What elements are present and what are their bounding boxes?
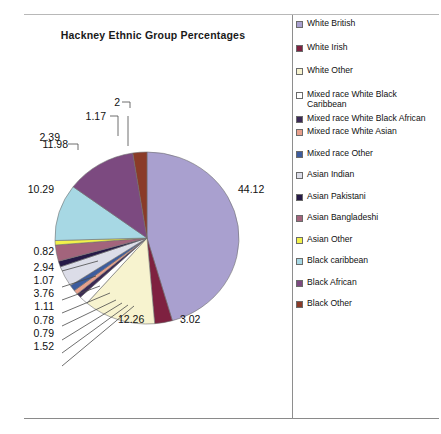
data-label-12-26: 12.26 <box>118 313 144 325</box>
legend-swatch-icon <box>296 258 303 265</box>
legend-item[interactable]: Asian Bangladeshi <box>296 212 438 223</box>
legend-item-label: Asian Other <box>307 234 352 245</box>
data-label-1-11: 1.11 <box>8 300 54 312</box>
data-label-0-82: 0.82 <box>8 245 54 257</box>
legend-swatch-icon <box>296 116 303 123</box>
legend-swatch-icon <box>296 215 303 222</box>
legend-item[interactable]: Asian Pakistani <box>296 191 438 202</box>
data-label-2: 2 <box>74 96 120 108</box>
legend-item[interactable]: White Irish <box>296 42 438 53</box>
legend-item[interactable]: White British <box>296 18 438 29</box>
legend-item-label: Black Other <box>307 298 352 309</box>
legend-swatch-icon <box>296 68 303 75</box>
legend-item[interactable]: Asian Indian <box>296 169 438 180</box>
data-label-44-12: 44.12 <box>238 183 264 195</box>
data-label-1-17: 1.17 <box>60 110 106 122</box>
legend-item-label: Mixed race White Black African <box>307 113 425 124</box>
legend-item[interactable]: Black Other <box>296 298 438 309</box>
data-label-3-02: 3.02 <box>180 313 200 325</box>
legend-swatch-icon <box>296 151 303 158</box>
legend-item-label: Black caribbean <box>307 255 368 266</box>
legend-swatch-icon <box>296 280 303 287</box>
data-label-3-76: 3.76 <box>8 287 54 299</box>
legend-swatch-icon <box>296 92 303 99</box>
chart-page: Hackney Ethnic Group Percentages 2 1.17 … <box>0 0 441 434</box>
legend-item-label: White British <box>307 18 355 29</box>
legend-item[interactable]: Asian Other <box>296 234 438 245</box>
data-label-1-52: 1.52 <box>8 340 54 352</box>
vertical-divider <box>292 15 293 419</box>
legend-swatch-icon <box>296 21 303 28</box>
legend-item[interactable]: Black caribbean <box>296 255 438 266</box>
legend-swatch-icon <box>296 194 303 201</box>
legend-swatch-icon <box>296 45 303 52</box>
legend-item[interactable]: Black African <box>296 277 438 288</box>
legend-item-label: Mixed race Other <box>307 148 373 159</box>
data-label-2-94: 2.94 <box>8 261 54 273</box>
legend-item-label: White Irish <box>307 42 348 53</box>
legend-swatch-icon <box>296 172 303 179</box>
pie-chart: 2 1.17 2.39 11.98 10.29 0.82 2.94 1.07 3… <box>0 0 292 434</box>
legend-swatch-icon <box>296 237 303 244</box>
legend-item[interactable]: Mixed race Other <box>296 148 438 159</box>
legend-item-label: Mixed race White Asian <box>307 126 397 137</box>
pie-svg <box>0 0 292 434</box>
data-label-10-29: 10.29 <box>8 183 54 195</box>
pie-slices <box>55 152 239 324</box>
legend-swatch-icon <box>296 301 303 308</box>
legend-item-label: White Other <box>307 65 353 76</box>
data-label-1-07: 1.07 <box>8 274 54 286</box>
legend-item[interactable]: Mixed race White Black African <box>296 113 438 124</box>
legend-item[interactable]: Mixed race White Black Caribbean <box>296 89 438 110</box>
legend-item-label: Asian Bangladeshi <box>307 212 378 223</box>
legend-item[interactable]: Mixed race White Asian <box>296 126 438 137</box>
data-label-11-98: 11.98 <box>22 138 68 150</box>
legend-item-label: Mixed race White Black Caribbean <box>307 89 438 110</box>
legend-swatch-icon <box>296 129 303 136</box>
legend-item-label: Asian Pakistani <box>307 191 366 202</box>
data-label-0-79: 0.79 <box>8 327 54 339</box>
legend-item-label: Asian Indian <box>307 169 354 180</box>
legend-item[interactable]: White Other <box>296 65 438 76</box>
legend-item-label: Black African <box>307 277 357 288</box>
legend: White BritishWhite IrishWhite OtherMixed… <box>296 18 438 410</box>
data-label-0-78: 0.78 <box>8 314 54 326</box>
